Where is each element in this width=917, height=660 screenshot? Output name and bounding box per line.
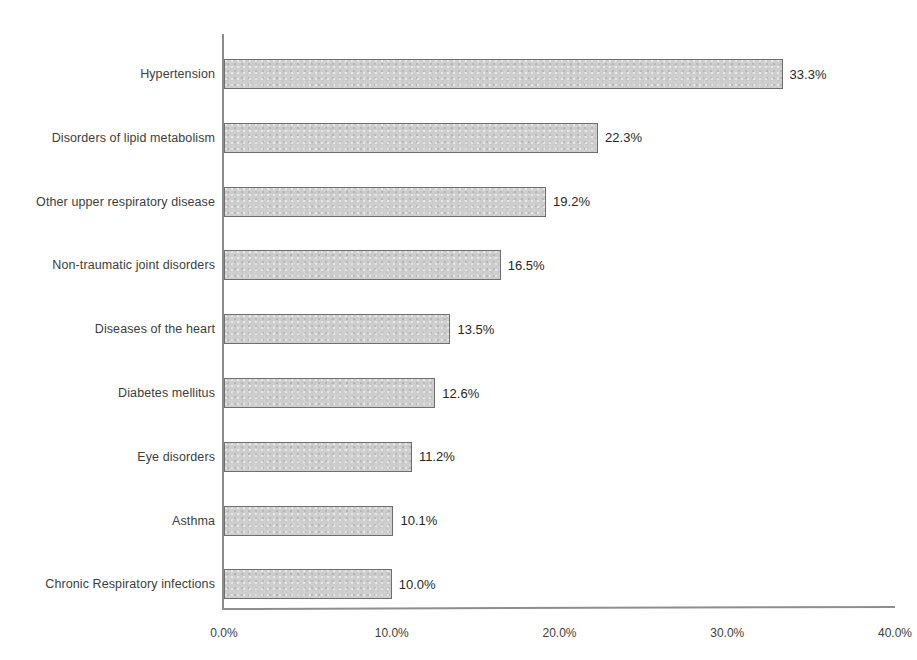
bar-rect[interactable]	[224, 506, 393, 536]
bar-value-label: 33.3%	[783, 59, 827, 89]
bar-value-label: 13.5%	[450, 314, 494, 344]
bar-row: Hypertension33.3%	[224, 42, 895, 106]
bar-category-label: Other upper respiratory disease	[36, 170, 224, 234]
bar-value-label: 16.5%	[501, 250, 545, 280]
bar-category-label: Eye disorders	[137, 425, 224, 489]
bar-rect[interactable]	[224, 250, 501, 280]
x-axis-tick-label: 30.0%	[710, 626, 744, 640]
x-axis-tick-label: 20.0%	[542, 626, 576, 640]
bar-row: Other upper respiratory disease19.2%	[224, 170, 895, 234]
bar-row: Disorders of lipid metabolism22.3%	[224, 106, 895, 170]
plot-area: Hypertension33.3%Disorders of lipid meta…	[224, 34, 895, 608]
x-axis-tick-label: 40.0%	[878, 626, 912, 640]
bar-rect[interactable]	[224, 59, 783, 89]
bar-category-label: Diabetes mellitus	[118, 361, 224, 425]
bar-rect[interactable]	[224, 123, 598, 153]
bar-rect[interactable]	[224, 187, 546, 217]
bar-value-label: 12.6%	[435, 378, 479, 408]
bar-category-label: Asthma	[172, 489, 224, 553]
bar-rect[interactable]	[224, 442, 412, 472]
bar-value-label: 11.2%	[412, 442, 455, 472]
bar-category-label: Disorders of lipid metabolism	[52, 106, 224, 170]
bar-row: Diseases of the heart13.5%	[224, 297, 895, 361]
bar-row: Eye disorders11.2%	[224, 425, 895, 489]
bar-row: Chronic Respiratory infections10.0%	[224, 552, 895, 616]
bar-value-label: 10.1%	[393, 506, 437, 536]
x-axis-tick-label: 10.0%	[375, 626, 409, 640]
bar-category-label: Diseases of the heart	[95, 297, 224, 361]
bar-chart-figure: Hypertension33.3%Disorders of lipid meta…	[0, 0, 917, 660]
bar-category-label: Non-traumatic joint disorders	[52, 233, 224, 297]
bar-value-label: 19.2%	[546, 187, 590, 217]
bar-rect[interactable]	[224, 569, 392, 599]
x-axis-tick-label: 0.0%	[210, 626, 237, 640]
bar-value-label: 22.3%	[598, 123, 642, 153]
bar-rect[interactable]	[224, 378, 435, 408]
bar-row: Asthma10.1%	[224, 489, 895, 553]
bar-rect[interactable]	[224, 314, 450, 344]
bar-category-label: Hypertension	[140, 42, 224, 106]
bar-row: Non-traumatic joint disorders16.5%	[224, 233, 895, 297]
bar-category-label: Chronic Respiratory infections	[45, 552, 224, 616]
bar-value-label: 10.0%	[392, 569, 436, 599]
bar-row: Diabetes mellitus12.6%	[224, 361, 895, 425]
